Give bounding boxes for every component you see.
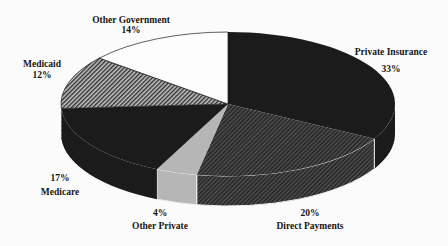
slice-pct-label-medicare: 17% [51, 174, 70, 184]
pie-slice-wall-other-private [157, 169, 197, 205]
pie-chart-figure: 33%Private Insurance20%Direct Payments4%… [0, 0, 448, 246]
slice-pct-label-direct-payments: 20% [301, 209, 320, 219]
slice-name-label-medicare: Medicare [41, 188, 79, 198]
slice-name-label-medicaid: Medicaid [23, 60, 61, 70]
slice-pct-label-medicaid: 12% [33, 71, 52, 81]
slice-name-label-private-insurance: Private Insurance [355, 48, 428, 58]
slice-name-label-direct-payments: Direct Payments [276, 222, 343, 232]
pie-chart [0, 0, 448, 246]
slice-pct-label-other-government: 14% [122, 26, 141, 36]
slice-pct-label-private-insurance: 33% [382, 65, 401, 75]
slice-name-label-other-government: Other Government [92, 16, 170, 26]
slice-name-label-other-private: Other Private [132, 222, 188, 232]
slice-pct-label-other-private: 4% [153, 209, 167, 219]
